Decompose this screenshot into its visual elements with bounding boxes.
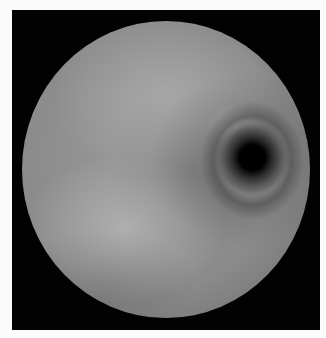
image-description: Grayscale endoscopic view inside a circu… — [22, 21, 23, 22]
endoscopic-view: Grayscale endoscopic view inside a circu… — [22, 21, 310, 318]
image-frame: Grayscale endoscopic view inside a circu… — [12, 10, 320, 330]
